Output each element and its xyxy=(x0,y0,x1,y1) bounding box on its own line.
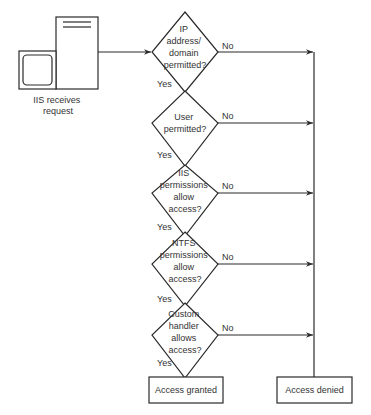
yes-label: Yes xyxy=(157,358,172,368)
yes-label: Yes xyxy=(157,294,172,304)
no-label: No xyxy=(222,181,234,191)
decision-custom-handler: Custom handler allows access? No Yes xyxy=(152,303,234,378)
yes-label: Yes xyxy=(157,222,172,232)
decision-iis-permissions: IIS permissions allow access? No Yes xyxy=(152,165,234,236)
decision-ntfs-permissions: NTFS permissions allow access? No Yes xyxy=(152,232,234,306)
no-label: No xyxy=(222,323,234,333)
outcome-access-denied: Access denied xyxy=(277,377,352,403)
no-label: No xyxy=(222,252,234,262)
no-label: No xyxy=(222,41,234,51)
access-flowchart: IIS receives request IP address/ domain … xyxy=(0,0,371,415)
yes-label: Yes xyxy=(157,150,172,160)
server-computer-icon xyxy=(19,17,98,89)
outcome-access-granted: Access granted xyxy=(149,377,223,403)
decision-user: User permitted? No Yes xyxy=(152,91,234,166)
svg-text:Access denied: Access denied xyxy=(285,385,344,395)
no-label: No xyxy=(222,111,234,121)
svg-text:Access granted: Access granted xyxy=(155,385,217,395)
start-label: IIS receives request xyxy=(33,95,83,116)
yes-label: Yes xyxy=(157,79,172,89)
monitor xyxy=(19,51,56,89)
server-tower xyxy=(56,17,98,89)
